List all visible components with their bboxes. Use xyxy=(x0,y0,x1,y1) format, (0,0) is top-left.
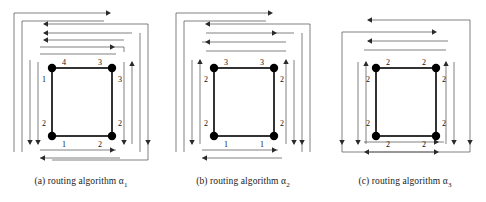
node-bottom-right-c xyxy=(432,132,440,140)
edge-label-a-left-bottom: 2 xyxy=(42,119,46,128)
panel-a-caption-subscript: 1 xyxy=(124,181,128,189)
edge-label-c-top-left: 2 xyxy=(386,58,390,67)
edge-label-c-left-top: 2 xyxy=(366,75,370,84)
panel-routing-algorithm-a: 4 3 1 2 3 2 1 2 (a) routing algorithm α1 xyxy=(0,0,162,202)
edge-label-b-right-bottom: 2 xyxy=(280,119,284,128)
central-square-b xyxy=(210,64,278,140)
edge-label-a-left-top: 1 xyxy=(42,75,46,84)
panel-c-caption: (c) routing algorithm α3 xyxy=(324,176,486,189)
edge-label-b-top-left: 3 xyxy=(224,58,228,67)
panel-routing-algorithm-b: 3 3 2 2 2 2 1 1 (b) routing algorithm α2 xyxy=(162,0,324,202)
panel-routing-algorithm-c: 2 2 2 2 2 2 2 2 (c) routing algorithm α3 xyxy=(324,0,486,202)
edge-label-b-left-top: 2 xyxy=(204,75,208,84)
node-bottom-left-b xyxy=(210,132,218,140)
edge-label-c-bottom-left: 2 xyxy=(386,140,390,149)
edge-label-c-right-bottom: 2 xyxy=(442,119,446,128)
panel-b-caption-prefix: (b) xyxy=(196,176,207,186)
panel-a-caption-prefix: (a) xyxy=(35,176,46,186)
edge-label-c-left-bottom: 2 xyxy=(366,119,370,128)
edge-label-a-right-bottom: 2 xyxy=(118,119,122,128)
edge-label-b-bottom-right: 1 xyxy=(260,140,264,149)
route-arrowheads-c xyxy=(339,17,472,154)
edge-label-a-top-right: 3 xyxy=(98,58,102,67)
node-bottom-left-a xyxy=(48,132,56,140)
edge-label-a-bottom-left: 1 xyxy=(62,140,66,149)
panel-b-caption-text: routing algorithm xyxy=(210,176,278,186)
panel-b-caption-subscript: 2 xyxy=(286,181,290,189)
node-bottom-right-b xyxy=(270,132,278,140)
route-paths-a xyxy=(14,13,148,160)
central-square-a xyxy=(48,64,116,140)
node-bottom-left-c xyxy=(372,132,380,140)
panel-b-caption: (b) routing algorithm α2 xyxy=(162,176,324,189)
panel-c-caption-subscript: 3 xyxy=(448,181,452,189)
edge-label-a-right-top: 3 xyxy=(118,75,122,84)
panel-a-diagram: 4 3 1 2 3 2 1 2 xyxy=(0,0,162,172)
edge-label-b-bottom-left: 1 xyxy=(224,140,228,149)
edge-label-c-right-top: 2 xyxy=(442,75,446,84)
edge-label-b-right-top: 2 xyxy=(280,75,284,84)
panel-c-caption-text: routing algorithm xyxy=(372,176,440,186)
node-top-right-c xyxy=(432,64,440,72)
node-bottom-right-a xyxy=(108,132,116,140)
edge-label-b-left-bottom: 2 xyxy=(204,119,208,128)
panel-c-caption-prefix: (c) xyxy=(359,176,370,186)
node-top-right-a xyxy=(108,64,116,72)
node-top-left-a xyxy=(48,64,56,72)
node-top-right-b xyxy=(270,64,278,72)
panel-a-caption-text: routing algorithm xyxy=(48,176,116,186)
routing-algorithms-figure: 4 3 1 2 3 2 1 2 (a) routing algorithm α1 xyxy=(0,0,486,202)
edge-label-c-top-right: 2 xyxy=(422,58,426,67)
edge-label-c-bottom-right: 2 xyxy=(422,140,426,149)
node-top-left-c xyxy=(372,64,380,72)
edge-label-a-top-left: 4 xyxy=(62,58,66,67)
edge-label-a-bottom-right: 2 xyxy=(98,140,102,149)
node-top-left-b xyxy=(210,64,218,72)
central-square-c xyxy=(372,64,440,140)
panel-a-caption: (a) routing algorithm α1 xyxy=(0,176,162,189)
route-paths-c xyxy=(342,20,470,152)
edge-label-b-top-right: 3 xyxy=(260,58,264,67)
panel-c-diagram: 2 2 2 2 2 2 2 2 xyxy=(324,0,486,172)
panel-b-diagram: 3 3 2 2 2 2 1 1 xyxy=(162,0,324,172)
